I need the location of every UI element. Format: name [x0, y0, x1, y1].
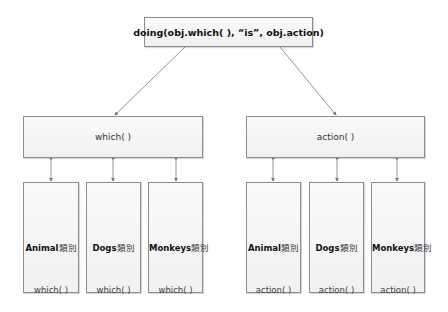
- monkeys-action-class-box: Monkeys類別 action( ): [371, 182, 425, 293]
- method-label: action( ): [372, 285, 424, 295]
- method-label: which( ): [87, 285, 140, 295]
- action-method-label: action( ): [317, 132, 355, 142]
- which-method-label: which( ): [95, 132, 131, 142]
- class-name: Monkeys類別: [149, 241, 202, 253]
- class-name: Dogs類別: [310, 241, 363, 253]
- dogs-which-class-box: Dogs類別 which( ): [86, 182, 141, 293]
- method-label: which( ): [24, 285, 78, 295]
- doing-call-label: doing(obj.which( ), “is”, obj.action): [133, 27, 324, 38]
- monkeys-which-class-box: Monkeys類別 which( ): [148, 182, 203, 293]
- class-name: Animal類別: [24, 241, 78, 253]
- which-method-box: which( ): [23, 116, 203, 158]
- class-name: Dogs類別: [87, 241, 140, 253]
- method-label: action( ): [247, 285, 300, 295]
- doing-call-box: doing(obj.which( ), “is”, obj.action): [144, 17, 313, 47]
- method-label: action( ): [310, 285, 363, 295]
- animal-action-class-box: Animal類別 action( ): [246, 182, 301, 293]
- method-label: which( ): [149, 285, 202, 295]
- animal-which-class-box: Animal類別 which( ): [23, 182, 79, 293]
- class-name: Monkeys類別: [372, 241, 424, 253]
- class-name: Animal類別: [247, 241, 300, 253]
- action-method-box: action( ): [246, 116, 425, 158]
- dogs-action-class-box: Dogs類別 action( ): [309, 182, 364, 293]
